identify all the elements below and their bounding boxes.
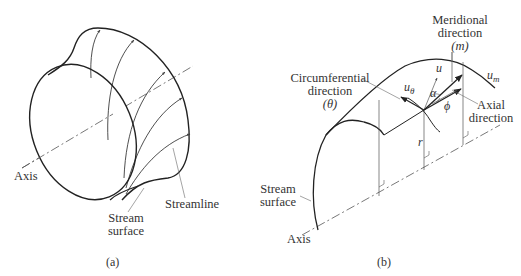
panel-a-drawing [10, 28, 193, 216]
axis-line-b [302, 125, 500, 235]
alpha-symbol: α [430, 87, 436, 100]
stream-surface-label-b: Stream surface [256, 183, 300, 209]
axis-label-a: Axis [14, 170, 38, 183]
phi-symbol: ϕ [444, 100, 450, 113]
circumferential-direction-label: Circumferential direction (θ) [282, 72, 378, 111]
caption-b: (b) [377, 256, 391, 269]
meridional-direction-label: Meridional direction (m) [420, 14, 500, 53]
axial-direction-label: Axial direction [462, 99, 520, 125]
stream-surface-leader-b [300, 196, 311, 201]
u-theta-vector [401, 97, 424, 110]
streamline-label: Streamline [165, 198, 219, 211]
axis-label-b: Axis [287, 233, 311, 246]
u-m-symbol: um [487, 69, 500, 86]
caption-a: (a) [106, 256, 119, 269]
r-symbol: r [418, 136, 423, 149]
u-theta-symbol: uθ [404, 81, 414, 98]
stream-surface-label-a: Stream surface [104, 212, 148, 238]
stream-surface-curve [313, 120, 384, 230]
streamline-leader [173, 148, 185, 198]
u-symbol: u [436, 62, 442, 75]
